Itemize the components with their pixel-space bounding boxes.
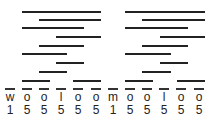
interval-bar (39, 19, 101, 21)
number-label: 1 (106, 104, 120, 116)
number-label: 1 (3, 104, 17, 116)
number-label: 5 (174, 104, 188, 116)
interval-bar (39, 71, 67, 73)
number-label: 5 (192, 104, 206, 116)
interval-bar (160, 36, 205, 38)
interval-bar (56, 62, 84, 64)
interval-bar (177, 80, 205, 82)
interval-bar (22, 11, 101, 13)
interval-bar (142, 45, 188, 47)
number-label: 5 (157, 104, 171, 116)
interval-bar (56, 36, 101, 38)
letter-label: o (89, 91, 103, 103)
letter-label: w (3, 91, 17, 103)
number-label: 5 (71, 104, 85, 116)
interval-bar (160, 62, 188, 64)
letter-label: o (140, 91, 154, 103)
interval-bar (125, 11, 205, 13)
number-label: 5 (20, 104, 34, 116)
interval-bar (142, 71, 171, 73)
letter-label: l (54, 91, 68, 103)
interval-bar (73, 80, 101, 82)
interval-bar (22, 27, 84, 29)
interval-bar (39, 45, 84, 47)
interval-bar (125, 27, 188, 29)
interval-bar (125, 80, 153, 82)
number-label: 5 (37, 104, 51, 116)
letter-label: o (174, 91, 188, 103)
interval-bar (142, 19, 205, 21)
number-label: 5 (54, 104, 68, 116)
letter-label: o (71, 91, 85, 103)
interval-bar (22, 53, 67, 55)
letter-label: o (123, 91, 137, 103)
letter-label: o (20, 91, 34, 103)
number-label: 5 (123, 104, 137, 116)
letter-label: o (37, 91, 51, 103)
letter-label: l (157, 91, 171, 103)
number-label: 5 (140, 104, 154, 116)
letter-label: o (192, 91, 206, 103)
interval-bar (125, 53, 171, 55)
number-label: 5 (89, 104, 103, 116)
letter-label: m (106, 91, 120, 103)
interval-bar (22, 80, 50, 82)
